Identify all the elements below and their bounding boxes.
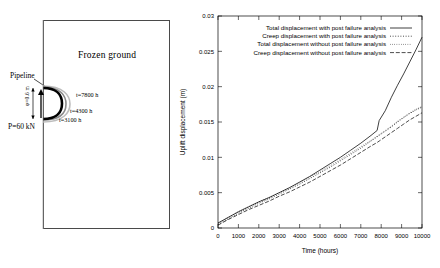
x-tick-label: 9000 — [395, 233, 409, 239]
y-tick-label: 0.01 — [202, 155, 214, 161]
y-tick-label: 0.005 — [199, 190, 215, 196]
contour-3100-label: t=3100 h — [59, 116, 82, 123]
legend-label-0: Total displacement with post failure ana… — [266, 24, 386, 31]
series-line-0 — [218, 37, 422, 223]
legend-label-3: Creep displacement without post failure … — [254, 49, 386, 56]
x-tick-label: 5000 — [313, 233, 327, 239]
chart-legend: Total displacement with post failure ana… — [254, 24, 412, 56]
y-axis-title: Uplift displacement (m) — [179, 89, 187, 155]
uplift-displacement-chart: 00.0050.010.0150.020.0250.03 01000200030… — [176, 0, 440, 268]
legend-label-2: Total displacement without post failure … — [257, 40, 386, 47]
x-tick-label: 10000 — [414, 233, 431, 239]
contour-3100-path — [43, 88, 62, 119]
diagram-graphics: t=7800 h t=4300 h t=3100 h — [0, 0, 200, 268]
x-tick-label: 7000 — [354, 233, 368, 239]
contour-7800-label: t=7800 h — [76, 91, 99, 98]
x-tick-label: 8000 — [375, 233, 389, 239]
x-tick-label: 3000 — [273, 233, 287, 239]
y-tick-label: 0.03 — [202, 13, 214, 19]
x-tick-label: 1000 — [232, 233, 246, 239]
y-tick-label: 0.02 — [202, 84, 214, 90]
x-tick-label: 4000 — [293, 233, 307, 239]
diameter-arrow-up-icon — [31, 88, 34, 91]
chart-series — [218, 37, 422, 225]
x-tick-label: 2000 — [252, 233, 266, 239]
contour-4300-label: t=4300 h — [70, 107, 93, 114]
pipeline-frozen-ground-diagram: Frozen ground Pipeline P=60 kN φ=0.6 m t… — [0, 0, 200, 268]
series-line-2 — [218, 106, 422, 223]
chart-canvas: 00.0050.010.0150.020.0250.03 01000200030… — [176, 0, 440, 268]
legend-label-1: Creep displacement with post failure ana… — [262, 32, 386, 39]
y-tick-label: 0.025 — [199, 49, 215, 55]
x-tick-label: 6000 — [334, 233, 348, 239]
y-tick-label: 0.015 — [199, 119, 215, 125]
diameter-arrow-down-icon — [31, 116, 34, 119]
x-axis-title: Time (hours) — [302, 247, 339, 255]
x-tick-label: 0 — [216, 233, 220, 239]
y-tick-label: 0 — [211, 225, 215, 231]
